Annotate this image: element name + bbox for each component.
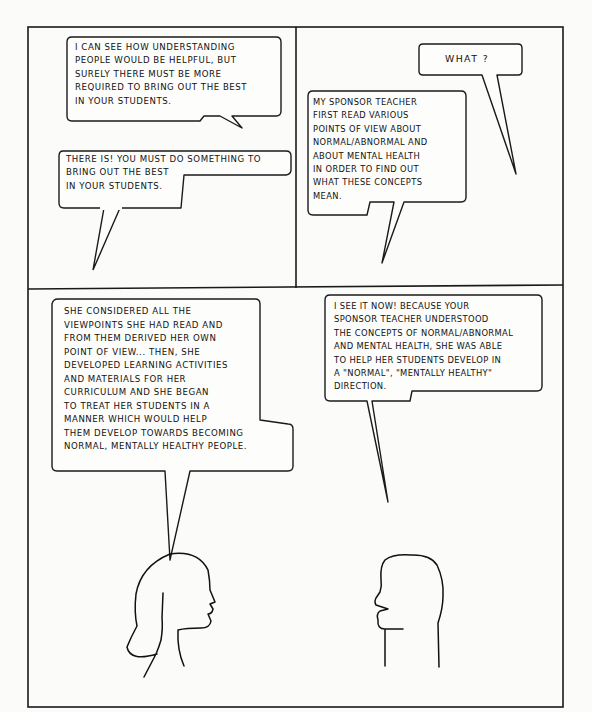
man-profile-icon [375,555,443,667]
bubble-top-left-b-tail [93,208,120,270]
bubble-text-i-see-it-now: I see it now! Because your sponsor teach… [334,300,513,394]
bubble-text-understanding-people: I can see how understanding people would… [75,41,247,108]
bubble-text-what: What ? [445,52,489,65]
bubble-text-she-considered: She considered all the viewpoints she ha… [64,305,247,454]
tail-joint-mask [100,206,122,210]
bubble-text-sponsor-teacher: My sponsor teacher first read various po… [313,96,428,203]
bubble-text-there-is: There is! You must do something to bring… [66,153,261,193]
woman-profile-icon [127,553,215,677]
